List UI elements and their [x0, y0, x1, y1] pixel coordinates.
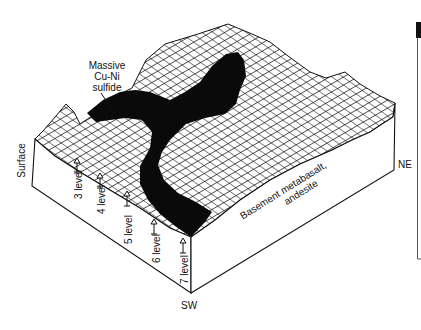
- callout-line-3: sulfide: [76, 82, 138, 93]
- block-diagram: [0, 0, 421, 330]
- sw-direction-label: SW: [181, 300, 197, 311]
- page-edge-bracket: [416, 22, 421, 259]
- level-label-5: 5 level: [123, 215, 134, 244]
- level-label-6: 6 level: [151, 234, 162, 263]
- level-label-3: 3 level: [73, 170, 84, 199]
- callout-line-2: Cu-Ni: [76, 71, 138, 82]
- level-label-4: 4 level: [96, 185, 107, 214]
- surface-label: Surface: [16, 136, 27, 186]
- level-label-7: 7 level: [179, 255, 190, 284]
- callout-line-1: Massive: [76, 60, 138, 71]
- ore-body-callout-label: Massive Cu-Ni sulfide: [76, 60, 138, 93]
- ne-direction-label: NE: [398, 159, 412, 170]
